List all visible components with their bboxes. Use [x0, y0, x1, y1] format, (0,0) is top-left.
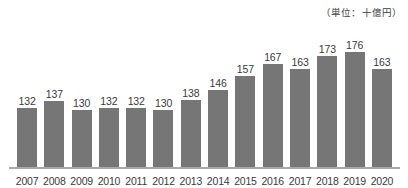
x-axis-tick-label: 2018 [313, 175, 341, 187]
bar-rect[interactable] [181, 100, 201, 168]
bar-value-label: 132 [13, 95, 40, 107]
bar-value-label: 163 [368, 56, 395, 68]
bar-value-label: 138 [177, 87, 204, 99]
bar-rect[interactable] [153, 110, 173, 168]
bar-value-label: 173 [314, 43, 341, 55]
plot-area: 1321371301321321301381461571671631731761… [0, 0, 408, 188]
bar-rect[interactable] [290, 69, 310, 168]
x-axis-tick-label: 2015 [231, 175, 259, 187]
bar-value-label: 137 [41, 88, 68, 100]
x-axis-tick-label: 2016 [259, 175, 287, 187]
x-axis-tick-label: 2020 [368, 175, 396, 187]
bar-rect[interactable] [235, 76, 255, 168]
bar-chart-figure: （単位：十億円） 1321371301321321301381461571671… [0, 0, 408, 188]
x-axis-tick-label: 2008 [40, 175, 68, 187]
bar-rect[interactable] [99, 108, 119, 168]
bar-value-label: 130 [150, 97, 177, 109]
bar-rect[interactable] [44, 101, 64, 168]
x-axis-tick-label: 2014 [204, 175, 232, 187]
bar-rect[interactable] [17, 108, 37, 168]
bar-value-label: 132 [123, 95, 150, 107]
bar-rect[interactable] [126, 108, 146, 168]
bar-value-label: 130 [68, 97, 95, 109]
x-axis-tick-label: 2017 [286, 175, 314, 187]
x-axis-tick-label: 2007 [13, 175, 41, 187]
bar-rect[interactable] [263, 64, 283, 168]
bar-rect[interactable] [345, 52, 365, 168]
x-axis-tick-label: 2013 [177, 175, 205, 187]
bar-value-label: 163 [286, 56, 313, 68]
bar-value-label: 146 [205, 77, 232, 89]
x-axis-tick-label: 2011 [122, 175, 150, 187]
bar-rect[interactable] [72, 110, 92, 168]
bar-value-label: 132 [95, 95, 122, 107]
x-axis-tick-label: 2019 [341, 175, 369, 187]
bar-value-label: 176 [341, 39, 368, 51]
bar-rect[interactable] [372, 69, 392, 168]
bar-rect[interactable] [208, 90, 228, 168]
x-axis-line [9, 167, 400, 169]
x-axis-tick-label: 2009 [68, 175, 96, 187]
x-axis-tick-label: 2012 [149, 175, 177, 187]
bar-value-label: 157 [232, 63, 259, 75]
bar-value-label: 167 [259, 51, 286, 63]
bar-rect[interactable] [317, 56, 337, 168]
x-axis-tick-label: 2010 [95, 175, 123, 187]
